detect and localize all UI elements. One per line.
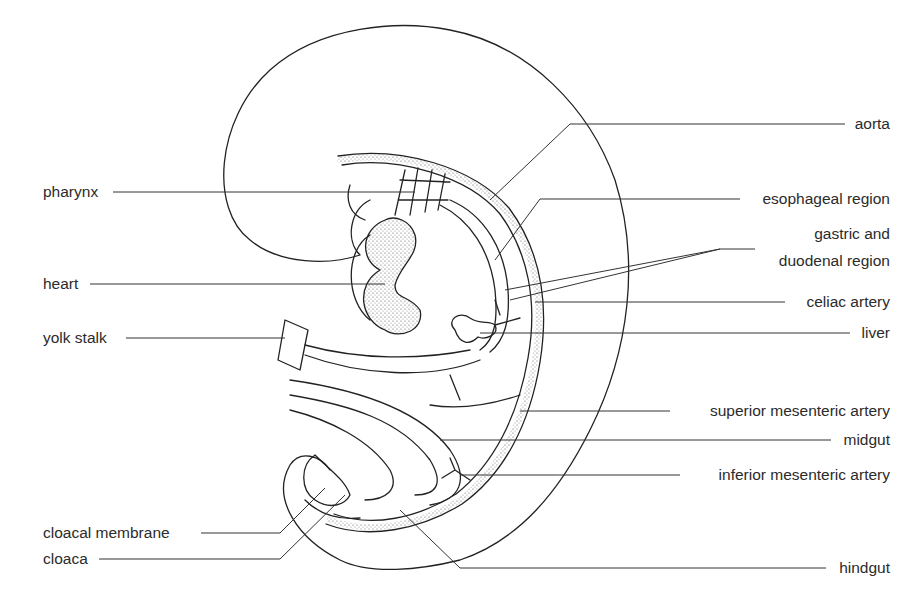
label-heart: heart <box>43 275 78 293</box>
sma-branch <box>430 375 520 407</box>
label-inferior-mesenteric-artery: inferior mesenteric artery <box>719 466 890 484</box>
cloaca-shape <box>304 455 350 505</box>
label-esophageal-region: esophageal region <box>762 190 890 208</box>
label-liver: liver <box>862 324 890 342</box>
foregut <box>440 205 496 350</box>
embryo-outline <box>224 26 629 570</box>
label-hindgut: hindgut <box>839 559 890 577</box>
label-celiac-artery: celiac artery <box>806 293 890 311</box>
midgut-loops <box>290 380 460 505</box>
label-superior-mesenteric-artery: superior mesenteric artery <box>710 402 890 420</box>
label-cloaca: cloaca <box>43 550 88 568</box>
label-aorta: aorta <box>855 115 890 133</box>
head-fold <box>348 185 365 220</box>
label-midgut: midgut <box>843 431 890 449</box>
label-yolk-stalk: yolk stalk <box>43 329 107 347</box>
heart-tube <box>364 218 421 334</box>
label-duodenal-region: duodenal region <box>779 252 890 270</box>
dorsal-aorta <box>330 157 539 527</box>
label-pharynx: pharynx <box>43 183 98 201</box>
label-gastric-and: gastric and <box>814 225 890 243</box>
embryo-illustration <box>0 0 918 606</box>
label-cloacal-membrane: cloacal membrane <box>43 524 170 542</box>
yolk-stalk-shape <box>278 320 308 370</box>
liver-bud <box>452 315 496 342</box>
cloacal-membrane-shape <box>305 500 360 518</box>
